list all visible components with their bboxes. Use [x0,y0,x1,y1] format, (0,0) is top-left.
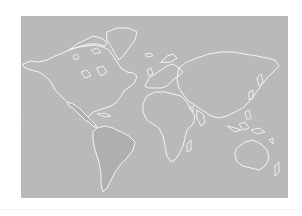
caribbean [97,113,111,117]
world-map[interactable] [21,16,288,198]
mexico-central-america [67,102,97,128]
pacific-islands [269,138,273,144]
divider [0,209,302,210]
asia [177,52,279,126]
greenland [107,28,137,60]
australia [235,140,269,170]
south-america [93,126,135,192]
new-zealand [275,162,279,176]
iceland [145,53,153,57]
world-map-svg [21,16,288,198]
madagascar [187,140,191,152]
